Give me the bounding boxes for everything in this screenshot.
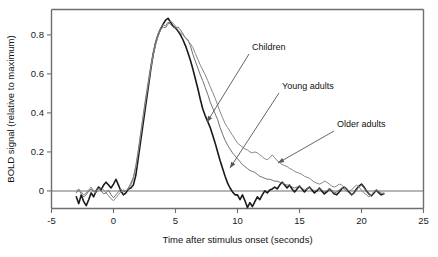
annotation-label-young-adults: Young adults	[282, 81, 334, 91]
annotation-leader-children	[207, 54, 249, 122]
annotation-leader-young-adults	[230, 93, 279, 168]
annotation-arrowhead	[278, 158, 284, 163]
bold-signal-line-chart: -5051015202500.20.40.60.8 ChildrenYoung …	[0, 0, 438, 257]
annotation-leader-older-adults	[278, 131, 334, 163]
y-tick-label: 0.6	[31, 68, 44, 79]
x-tick-label: 0	[111, 215, 116, 226]
series-line-young-adults	[76, 22, 384, 198]
y-axis-title: BOLD signal (relative to maximum)	[5, 35, 16, 182]
x-tick-label: -5	[47, 215, 55, 226]
y-tick-label: 0.2	[31, 146, 44, 157]
series-line-older-adults	[76, 21, 384, 200]
annotation-group: ChildrenYoung adultsOlder adults	[207, 42, 386, 168]
x-tick-label: 20	[356, 215, 367, 226]
x-tick-label: 10	[232, 215, 243, 226]
y-tick-label: 0.8	[31, 29, 44, 40]
x-tick-label: 15	[294, 215, 305, 226]
x-tick-label: 5	[173, 215, 178, 226]
series-group	[76, 18, 384, 207]
x-tick-label: 25	[418, 215, 429, 226]
y-tick-label: 0	[39, 185, 44, 196]
x-axis-title: Time after stimulus onset (seconds)	[162, 234, 312, 245]
y-tick-label: 0.4	[31, 107, 44, 118]
annotation-arrowhead	[207, 116, 212, 122]
series-line-children	[76, 18, 384, 207]
chart-figure: -5051015202500.20.40.60.8 ChildrenYoung …	[0, 0, 438, 257]
annotation-label-older-adults: Older adults	[337, 119, 386, 129]
annotation-arrowhead	[230, 162, 235, 168]
annotation-label-children: Children	[252, 42, 286, 52]
